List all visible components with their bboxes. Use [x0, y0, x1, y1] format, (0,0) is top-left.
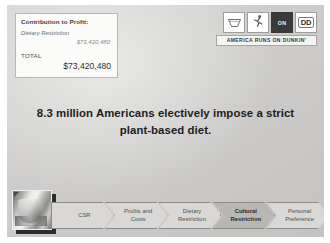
nav-chevron-label: Cultural Restriction — [221, 208, 266, 223]
on-badge-icon-tile: ON — [271, 12, 293, 33]
nav-chevron-dietary-restriction[interactable]: Dietary Restriction — [159, 202, 222, 229]
slide-canvas: Contribution to Profit: Dietary Restrict… — [7, 5, 324, 237]
nav-chevron-csr[interactable]: CSR — [51, 202, 114, 229]
slide-root: Contribution to Profit: Dietary Restrict… — [0, 0, 330, 243]
contribution-box-title: Contribution to Profit: — [21, 18, 112, 25]
nav-chevron-label: CSR — [69, 212, 95, 219]
brand-icon-row: ON DD — [216, 12, 317, 33]
headline-text: 8.3 million Americans electively impose … — [35, 105, 296, 138]
nav-chevron-cultural-restriction[interactable]: Cultural Restriction — [212, 202, 275, 229]
nav-chevron-profits-and-costs[interactable]: Profits and Costs — [105, 202, 168, 229]
thumbnail-image — [12, 190, 52, 230]
chevron-navigation: CSR Profits and Costs Dietary Restrictio… — [51, 202, 320, 229]
dd-logo-icon: DD — [298, 17, 315, 28]
thumbnail-corner-marker — [14, 192, 19, 197]
contribution-to-profit-box: Contribution to Profit: Dietary Restrict… — [15, 13, 118, 78]
brand-tagline-bar: AMERICA RUNS ON DUNKIN' — [216, 35, 317, 46]
runner-icon — [252, 14, 265, 32]
nav-chevron-label: Profits and Costs — [115, 208, 157, 223]
contribution-total-value: $73,420,480 — [21, 61, 112, 72]
dunkin-brand-lockup: ON DD AMERICA RUNS ON DUNKIN' — [216, 12, 317, 46]
dd-logo-icon-tile: DD — [295, 12, 317, 33]
contribution-total-label: TOTAL — [21, 52, 112, 59]
brand-tagline: AMERICA RUNS ON DUNKIN' — [217, 38, 316, 44]
on-badge-icon: ON — [278, 20, 286, 26]
contribution-row-value-dietary-restriction: $73,420,480 — [21, 39, 112, 46]
runner-icon-tile — [247, 12, 269, 33]
nav-chevron-label: Dietary Restriction — [169, 208, 211, 223]
coffee-photo-thumbnail — [12, 190, 56, 234]
coffee-cup-icon — [227, 14, 242, 32]
nav-chevron-label: Personal Preference — [276, 208, 319, 223]
coffee-cup-icon-tile — [223, 12, 245, 33]
contribution-row-label-dietary-restriction: Dietary Restriction — [21, 30, 112, 37]
